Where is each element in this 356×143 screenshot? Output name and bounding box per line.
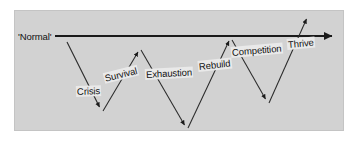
diagram-canvas: 'Normal' Crisis Survival Exhaustion Rebu… [0,0,356,143]
segment-thrive [269,19,307,103]
segment-rebuild [188,41,229,128]
baseline-label: 'Normal' [18,31,51,42]
segment-crisis [67,42,100,107]
node-label-crisis: Crisis [76,85,102,97]
segment-exhaustion [141,50,185,125]
